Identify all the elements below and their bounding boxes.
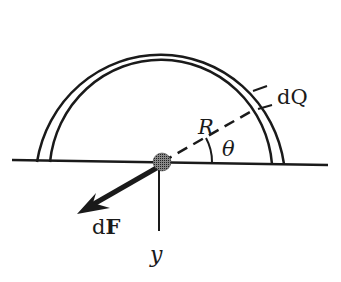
force-arrow-shaft [92,166,160,205]
force-label: dF [92,214,120,239]
inner-ring-arc [50,60,272,164]
diagram-canvas: dQ R θ dF y [0,0,341,282]
outer-ring-arc [37,55,284,164]
charge-element-label: dQ [277,85,308,109]
angle-label: θ [222,137,235,161]
y-axis-label: y [149,242,163,267]
charge-element-edge-upper [253,86,267,91]
point-charge [153,153,171,171]
angle-arc [206,138,212,162]
radius-label: R [197,115,214,139]
